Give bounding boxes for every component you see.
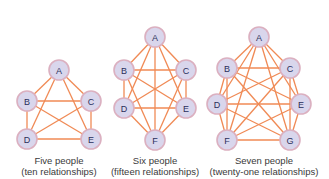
caption-title: Seven people [204,155,324,166]
node-label: A [256,33,262,43]
person-node-c: C [176,60,196,80]
node-label: B [121,66,127,76]
person-node-e: E [81,129,101,149]
caption-subtitle: (ten relationships) [9,166,109,177]
person-node-f: F [217,130,237,150]
graph-six-edges [124,37,186,140]
node-label: F [224,136,230,146]
person-node-b: B [17,91,37,111]
graph-seven-edges [217,37,301,140]
person-node-g: G [280,130,300,150]
caption-six-people: Six people (fifteen relationships) [100,155,210,177]
relationship-graphs: ABCDEABCDEFABCDEFG [0,0,329,179]
person-node-a: A [145,27,165,47]
person-node-d: D [114,98,134,118]
node-label: E [88,135,94,145]
node-label: B [24,97,30,107]
person-node-a: A [49,60,69,80]
person-node-c: C [81,91,101,111]
node-label: C [287,64,294,74]
person-node-f: F [145,130,165,150]
person-node-b: B [217,58,237,78]
edges-layer [27,37,301,140]
node-label: C [183,66,190,76]
caption-five-people: Five people (ten relationships) [9,155,109,177]
person-node-b: B [114,60,134,80]
node-label: A [152,33,158,43]
caption-title: Five people [9,155,109,166]
node-label: C [88,97,95,107]
person-node-a: A [249,27,269,47]
caption-subtitle: (twenty-one relationships) [204,166,324,177]
node-label: D [24,135,31,145]
node-label: D [214,100,221,110]
person-node-d: D [17,129,37,149]
graph-five-nodes: ABCDE [17,60,101,149]
person-node-c: C [280,58,300,78]
node-label: F [152,136,158,146]
person-node-e: E [291,94,311,114]
caption-subtitle: (fifteen relationships) [100,166,210,177]
node-label: G [286,136,293,146]
caption-title: Six people [100,155,210,166]
caption-seven-people: Seven people (twenty-one relationships) [204,155,324,177]
node-label: B [224,64,230,74]
node-label: E [183,104,189,114]
node-label: A [56,66,62,76]
graph-seven-nodes: ABCDEFG [207,27,311,150]
node-label: D [121,104,128,114]
node-label: E [298,100,304,110]
person-node-d: D [207,94,227,114]
person-node-e: E [176,98,196,118]
